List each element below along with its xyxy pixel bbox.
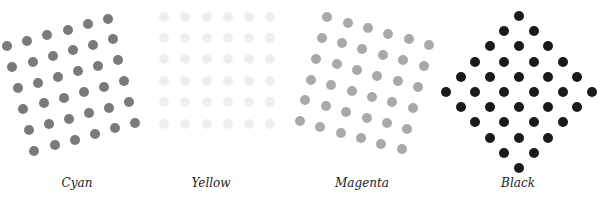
cyan-halftone-dot	[2, 41, 12, 51]
black-halftone-dot	[470, 117, 480, 127]
yellow-halftone-dot	[202, 119, 212, 129]
cyan-halftone-dot	[53, 72, 63, 82]
magenta-halftone-dot	[300, 95, 310, 105]
magenta-halftone-dot	[311, 54, 321, 64]
magenta-halftone-dot	[372, 71, 382, 81]
magenta-halftone-dot	[321, 101, 331, 111]
cyan-halftone-dot	[59, 93, 69, 103]
magenta-halftone-dot	[341, 107, 351, 117]
black-halftone-dot	[456, 72, 466, 82]
cyan-halftone-dot	[24, 125, 34, 135]
yellow-halftone-dot	[202, 12, 212, 22]
yellow-halftone-dot	[223, 33, 233, 43]
cyan-halftone-dot	[29, 146, 39, 156]
magenta-halftone-dot	[393, 76, 403, 86]
magenta-halftone-dot	[383, 29, 393, 39]
yellow-halftone-dot	[180, 33, 190, 43]
yellow-halftone-dot	[265, 119, 275, 129]
black-halftone-dot	[514, 133, 524, 143]
black-halftone-dot	[543, 102, 553, 112]
yellow-halftone-dot	[180, 119, 190, 129]
magenta-halftone-dot	[336, 128, 346, 138]
magenta-halftone-dot	[362, 113, 372, 123]
magenta-halftone-dot	[398, 55, 408, 65]
yellow-halftone-dot	[180, 54, 190, 64]
cyan-halftone-dot	[13, 83, 23, 93]
cyan-halftone-dot	[124, 97, 134, 107]
black-halftone-dot	[558, 87, 568, 97]
black-halftone-dot	[587, 87, 597, 97]
black-halftone-dot	[543, 133, 553, 143]
yellow-halftone-dot	[159, 54, 169, 64]
yellow-halftone-dot	[265, 76, 275, 86]
label-cyan: Cyan	[62, 176, 93, 190]
cyan-halftone-dot	[70, 135, 80, 145]
cyan-halftone-dot	[68, 45, 78, 55]
yellow-halftone-dot	[223, 12, 233, 22]
cyan-halftone-dot	[64, 114, 74, 124]
magenta-halftone-dot	[317, 33, 327, 43]
label-black: Black	[501, 176, 535, 190]
yellow-halftone-dot	[244, 12, 254, 22]
black-halftone-dot	[572, 72, 582, 82]
magenta-halftone-dot	[357, 44, 367, 54]
black-halftone-dot	[514, 102, 524, 112]
cyan-halftone-dot	[50, 140, 60, 150]
black-halftone-dot	[558, 117, 568, 127]
yellow-halftone-dot	[159, 12, 169, 22]
black-halftone-dot	[514, 72, 524, 82]
cyan-halftone-dot	[103, 14, 113, 24]
black-halftone-dot	[499, 26, 509, 36]
cyan-halftone-dot	[73, 66, 83, 76]
black-halftone-dot	[499, 57, 509, 67]
black-halftone-dot	[485, 72, 495, 82]
black-halftone-dot	[529, 57, 539, 67]
black-halftone-dot	[470, 57, 480, 67]
yellow-halftone-dot	[159, 33, 169, 43]
cyan-halftone-dot	[84, 108, 94, 118]
black-halftone-dot	[441, 87, 451, 97]
yellow-halftone-dot	[202, 33, 212, 43]
yellow-halftone-dot	[244, 97, 254, 107]
magenta-halftone-dot	[326, 80, 336, 90]
magenta-halftone-dot	[322, 12, 332, 22]
magenta-halftone-dot	[352, 65, 362, 75]
cyan-halftone-dot	[63, 25, 73, 35]
magenta-halftone-dot	[413, 82, 423, 92]
cyan-halftone-dot	[48, 51, 58, 61]
black-halftone-dot	[543, 72, 553, 82]
magenta-halftone-dot	[315, 122, 325, 132]
cyan-halftone-dot	[119, 76, 129, 86]
cyan-halftone-dot	[22, 36, 32, 46]
magenta-halftone-dot	[306, 75, 316, 85]
yellow-halftone-dot	[159, 76, 169, 86]
yellow-halftone-dot	[180, 76, 190, 86]
magenta-halftone-dot	[376, 139, 386, 149]
black-halftone-dot	[529, 87, 539, 97]
black-halftone-dot	[485, 133, 495, 143]
cyan-halftone-dot	[113, 55, 123, 65]
yellow-halftone-dot	[265, 54, 275, 64]
label-magenta: Magenta	[335, 176, 389, 190]
black-halftone-dot	[514, 163, 524, 173]
yellow-halftone-dot	[244, 54, 254, 64]
black-halftone-dot	[514, 41, 524, 51]
black-halftone-dot	[485, 41, 495, 51]
yellow-halftone-dot	[202, 76, 212, 86]
black-halftone-dot	[499, 117, 509, 127]
yellow-halftone-dot	[244, 76, 254, 86]
black-halftone-dot	[558, 57, 568, 67]
magenta-halftone-dot	[337, 38, 347, 48]
yellow-halftone-dot	[223, 76, 233, 86]
cyan-halftone-dot	[90, 129, 100, 139]
magenta-halftone-dot	[387, 97, 397, 107]
magenta-halftone-dot	[347, 86, 357, 96]
yellow-halftone-dot	[265, 97, 275, 107]
magenta-halftone-dot	[343, 18, 353, 28]
cyan-halftone-dot	[42, 30, 52, 40]
yellow-halftone-dot	[202, 97, 212, 107]
cyan-halftone-dot	[99, 82, 109, 92]
black-halftone-dot	[529, 148, 539, 158]
cyan-halftone-dot	[33, 78, 43, 88]
cyan-halftone-dot	[28, 57, 38, 67]
